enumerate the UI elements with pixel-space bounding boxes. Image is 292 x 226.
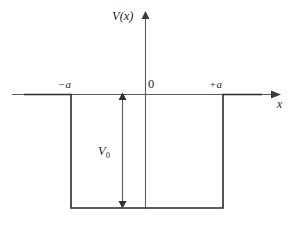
- left-edge-label-text: −a: [58, 78, 71, 90]
- square-well-path: [24, 95, 262, 209]
- y-axis-label-text: V(x): [112, 9, 134, 23]
- potential-well-plot: [0, 0, 292, 226]
- well-depth-label-text: V: [98, 144, 106, 158]
- origin-label-text: 0: [148, 77, 154, 91]
- potential-well-figure: V(x) 0 −a +a x V0: [0, 0, 292, 226]
- y-axis-label: V(x): [112, 10, 134, 23]
- y-axis: [142, 11, 150, 209]
- well-depth-label-subscript: 0: [106, 150, 110, 160]
- origin-label: 0: [148, 78, 154, 91]
- potential-curve: [24, 95, 262, 209]
- right-edge-label-text: +a: [209, 78, 222, 90]
- well-depth-arrow: [119, 93, 127, 209]
- well-depth-arrowhead-top: [119, 93, 127, 101]
- right-edge-label: +a: [209, 79, 222, 90]
- well-depth-label: V0: [98, 145, 110, 159]
- y-axis-arrowhead: [142, 11, 150, 19]
- left-edge-label: −a: [58, 79, 71, 90]
- x-axis-label: x: [277, 99, 282, 111]
- x-axis-label-text: x: [277, 98, 282, 110]
